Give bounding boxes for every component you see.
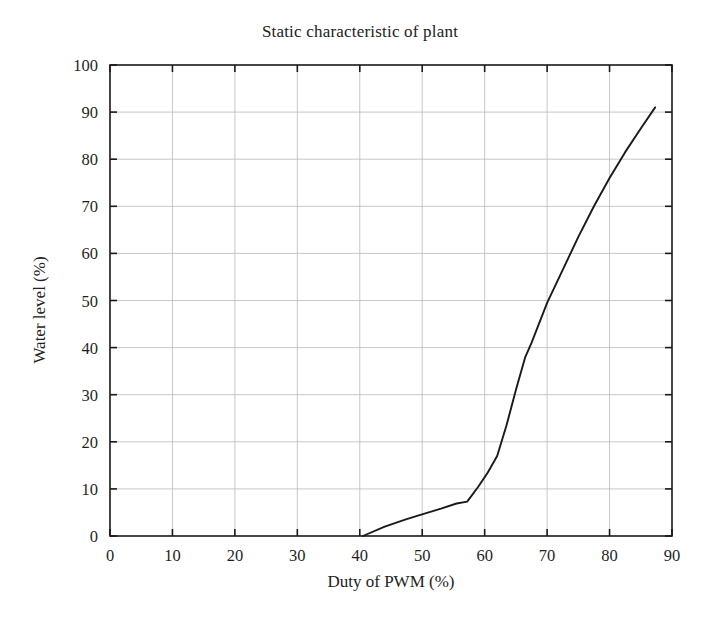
svg-text:40: 40	[352, 546, 369, 565]
svg-text:90: 90	[664, 546, 681, 565]
x-tick-labels: 0102030405060708090	[106, 546, 680, 565]
svg-text:70: 70	[539, 546, 556, 565]
svg-text:10: 10	[82, 480, 99, 499]
svg-text:0: 0	[106, 546, 114, 565]
svg-text:60: 60	[82, 244, 99, 263]
gridlines	[110, 65, 672, 536]
svg-text:20: 20	[82, 433, 99, 452]
plot-area: 0102030405060708090 01020304050607080901…	[0, 0, 720, 624]
svg-text:40: 40	[82, 339, 99, 358]
svg-text:80: 80	[601, 546, 618, 565]
svg-text:100: 100	[73, 56, 98, 75]
svg-text:80: 80	[82, 150, 99, 169]
chart-figure: Static characteristic of plant Water lev…	[0, 0, 720, 624]
y-tick-labels: 0102030405060708090100	[73, 56, 98, 546]
svg-text:20: 20	[227, 546, 244, 565]
data-series-line	[363, 107, 655, 536]
svg-text:90: 90	[82, 103, 99, 122]
svg-text:60: 60	[476, 546, 493, 565]
svg-text:30: 30	[82, 386, 99, 405]
svg-text:10: 10	[164, 546, 181, 565]
svg-text:50: 50	[414, 546, 431, 565]
svg-text:0: 0	[90, 527, 98, 546]
svg-text:50: 50	[82, 292, 99, 311]
svg-text:30: 30	[289, 546, 306, 565]
svg-text:70: 70	[82, 197, 99, 216]
